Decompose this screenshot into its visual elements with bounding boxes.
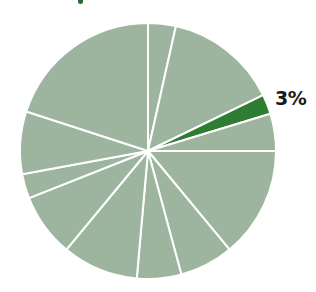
pie-slices (20, 23, 276, 279)
pie-chart (0, 0, 316, 292)
highlight-slice-label: 3% (275, 89, 306, 108)
